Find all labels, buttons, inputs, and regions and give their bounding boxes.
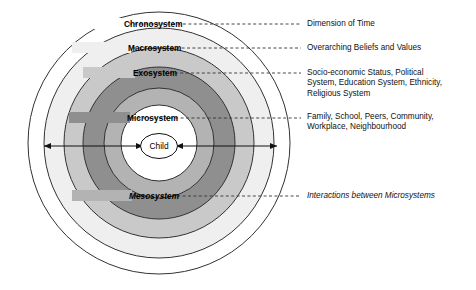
ring-label-microsystem: Microsystem	[127, 114, 178, 123]
annotation-microsystem: Family, School, Peers, Community, Workpl…	[307, 112, 434, 133]
annotation-mesosystem: Interactions between Microsystems	[307, 191, 435, 201]
annotation-macrosystem: Overarching Beliefs and Values	[307, 43, 421, 53]
ring-label-microsystem-group: Microsystem	[69, 112, 178, 123]
child-label: Child	[149, 141, 168, 151]
annotation-column: Dimension of Time Overarching Beliefs an…	[307, 0, 476, 290]
ring-label-mesosystem: Mesosystem	[129, 192, 179, 201]
ring-label-exosystem: Exosystem	[133, 69, 177, 78]
ring-label-exosystem-group: Exosystem	[83, 67, 177, 78]
ring-label-chronosystem: Chronosystem	[124, 20, 183, 29]
annotation-exosystem: Socio-economic Status, Political System,…	[307, 68, 442, 99]
diagram-canvas: Child Chronosystem Macrosystem Exosystem…	[0, 0, 476, 290]
ring-label-mesosystem-group: Mesosystem	[72, 190, 179, 201]
ring-label-macrosystem: Macrosystem	[128, 44, 181, 53]
ring-label-macrosystem-group: Macrosystem	[72, 42, 181, 53]
ring-label-chronosystem-group: Chronosystem	[67, 18, 183, 29]
annotation-chronosystem: Dimension of Time	[307, 19, 375, 29]
